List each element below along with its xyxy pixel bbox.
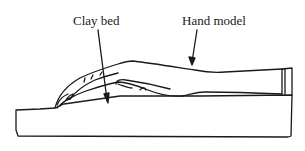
diagram-drawing (0, 0, 305, 151)
clay-bed-arrow-line (98, 30, 107, 100)
diagram-canvas: Clay bed Hand model (0, 0, 305, 151)
clay-bed-label: Clay bed (73, 14, 120, 27)
wrist-cuff (282, 68, 292, 95)
hand-model-arrowhead (189, 57, 195, 65)
hand-model-label: Hand model (182, 14, 246, 27)
thumb-lower (118, 84, 132, 88)
thumb-nail (140, 88, 146, 90)
